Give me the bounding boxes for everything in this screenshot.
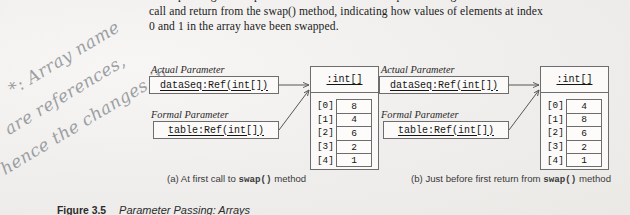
- actual-parameter-box: dataSeq:Ref(int[]): [379, 76, 509, 94]
- array-row: [2] 6: [547, 126, 602, 140]
- array-cells: [0] 8 [1] 4 [2] 6 [3] 2 [4] 1: [317, 99, 372, 167]
- actual-parameter-value: dataSeq:Ref(int[]): [390, 80, 498, 91]
- subcaption-b-prefix: (b) Just before first return from: [411, 173, 543, 184]
- array-index: [2]: [547, 126, 566, 140]
- array-cells: [0] 4 [1] 8 [2] 6 [3] 2 [4] 1: [547, 99, 602, 167]
- actual-parameter-box: dataSeq:Ref(int[]): [149, 76, 279, 94]
- annotation-line-3: hence the changes in: [0, 63, 171, 179]
- array-value: 6: [566, 126, 602, 140]
- array-row: [3] 2: [317, 140, 372, 154]
- formal-parameter-label: Formal Parameter: [381, 109, 459, 120]
- body-line-2: call and return from the swap() method, …: [149, 4, 630, 20]
- formal-parameter-box: table:Ref(int[]): [383, 121, 509, 139]
- array-value: 2: [566, 140, 602, 154]
- array-index: [1]: [317, 113, 336, 127]
- subcaption-b-mono: swap(): [543, 174, 576, 185]
- array-index: [4]: [547, 153, 566, 167]
- subcaption-a-mono: swap(): [238, 174, 271, 185]
- array-value: 8: [336, 99, 372, 113]
- array-index: [3]: [547, 140, 566, 154]
- body-paragraph: corresponding formal parameter. This sit…: [149, 0, 630, 35]
- subcaption-b: (b) Just before first return from swap()…: [411, 173, 611, 185]
- figure-number: Figure 3.5: [57, 205, 106, 215]
- array-row: [3] 2: [547, 140, 602, 154]
- array-row: [0] 4: [547, 99, 602, 113]
- array-value: 8: [566, 113, 602, 127]
- array-value: 6: [336, 126, 372, 140]
- actual-parameter-value: dataSeq:Ref(int[]): [160, 80, 268, 91]
- array-object-type: :int[]: [556, 74, 592, 85]
- formal-parameter-label: Formal Parameter: [151, 109, 229, 120]
- array-row: [2] 6: [317, 126, 372, 140]
- array-row: [1] 4: [317, 113, 372, 127]
- array-row: [4] 1: [317, 153, 372, 167]
- page-canvas: corresponding formal parameter. This sit…: [0, 0, 630, 215]
- array-index: [0]: [547, 99, 566, 113]
- array-object-box: :int[] [0] 4 [1] 8 [2] 6 [3] 2: [540, 66, 609, 170]
- array-row: [4] 1: [547, 153, 602, 167]
- annotation-line-2: are references,: [1, 51, 129, 139]
- subcaption-a: (a) At first call to swap() method: [167, 173, 306, 185]
- array-index: [0]: [317, 99, 336, 113]
- figure-title: Parameter Passing: Arrays: [119, 204, 250, 215]
- actual-parameter-label: Actual Parameter: [151, 64, 225, 75]
- array-index: [4]: [317, 153, 336, 167]
- figure-caption: Figure 3.5Parameter Passing: Arrays: [57, 200, 250, 215]
- actual-parameter-label: Actual Parameter: [381, 64, 455, 75]
- array-value: 4: [336, 113, 372, 127]
- subcaption-a-prefix: (a) At first call to: [167, 173, 238, 184]
- array-value: 4: [566, 99, 602, 113]
- array-row: [1] 8: [547, 113, 602, 127]
- formal-parameter-box: table:Ref(int[]): [153, 121, 279, 139]
- array-row: [0] 8: [317, 99, 372, 113]
- array-object-header: :int[]: [541, 67, 608, 93]
- array-value: 2: [336, 140, 372, 154]
- array-value: 1: [566, 153, 602, 167]
- array-value: 1: [336, 153, 372, 167]
- formal-parameter-value: table:Ref(int[]): [168, 125, 264, 136]
- formal-parameter-value: table:Ref(int[]): [398, 125, 494, 136]
- annotation-line-1: *: Array name: [5, 17, 123, 99]
- array-object-type: :int[]: [326, 74, 362, 85]
- array-index: [3]: [317, 140, 336, 154]
- subcaption-a-suffix: method: [272, 173, 307, 184]
- subcaption-b-suffix: method: [576, 173, 611, 184]
- array-index: [2]: [317, 126, 336, 140]
- array-object-box: :int[] [0] 8 [1] 4 [2] 6 [3] 2: [310, 66, 379, 170]
- array-object-header: :int[]: [311, 67, 378, 93]
- array-index: [1]: [547, 113, 566, 127]
- body-line-3: 0 and 1 in the array have been swapped.: [149, 19, 630, 35]
